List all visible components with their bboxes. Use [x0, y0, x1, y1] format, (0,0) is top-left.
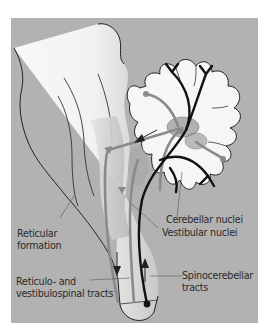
label-line: tracts	[182, 282, 253, 294]
label-vestibular-nuclei: Vestibular nuclei	[162, 227, 237, 239]
label-line: Spinocerebellar	[182, 270, 253, 282]
pathway-node	[220, 156, 226, 162]
label-line: formation	[17, 240, 61, 252]
label-cerebellar-nuclei: Cerebellar nuclei	[166, 214, 243, 226]
label-line: Reticulo- and	[16, 276, 113, 288]
label-line: vestibulospinal tracts	[16, 288, 113, 300]
label-reticulo-vestibulospinal-tracts: Reticulo- and vestibulospinal tracts	[16, 276, 113, 300]
label-spinocerebellar-tracts: Spinocerebellar tracts	[182, 270, 253, 294]
spinal-neuron-node	[144, 301, 151, 308]
pathway-node	[143, 91, 149, 97]
label-reticular-formation: Reticular formation	[17, 228, 61, 252]
vestibular-nuclei	[128, 146, 148, 186]
label-line: Reticular	[17, 228, 61, 240]
